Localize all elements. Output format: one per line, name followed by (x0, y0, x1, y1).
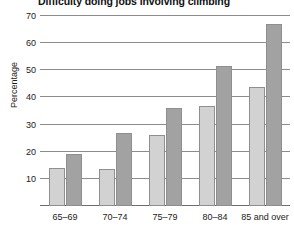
bar-group-1 (49, 16, 82, 206)
x-tick-label-5: 85 and over (241, 212, 289, 222)
y-tick-label-30: 30 (26, 120, 36, 130)
bar-5-2 (266, 24, 282, 206)
bar-3-1 (149, 135, 165, 206)
bar-1-1 (49, 168, 65, 206)
y-tick-label-60: 60 (26, 38, 36, 48)
bar-group-2 (99, 16, 132, 206)
y-tick-label-40: 40 (26, 92, 36, 102)
bar-4-2 (216, 66, 232, 206)
bar-1-2 (66, 154, 82, 206)
bar-2-2 (116, 133, 132, 206)
chart-title: Difficulty doing jobs involving climbing (38, 0, 230, 7)
x-tick-label-2: 70–74 (102, 212, 127, 222)
bar-4-1 (199, 106, 215, 206)
x-tick-label-3: 75–79 (152, 212, 177, 222)
y-tick-label-10: 10 (26, 174, 36, 184)
y-tick-label-20: 20 (26, 147, 36, 157)
y-axis-title: Percentage (9, 45, 19, 125)
y-tick-label-50: 50 (26, 65, 36, 75)
plot-area: 10203040506070 (40, 16, 290, 206)
bar-group-4 (199, 16, 232, 206)
y-tick-label-70: 70 (26, 11, 36, 21)
bar-group-5 (249, 16, 282, 206)
bar-group-3 (149, 16, 182, 206)
bar-2-1 (99, 169, 115, 206)
bar-5-1 (249, 87, 265, 206)
x-tick-label-4: 80–84 (202, 212, 227, 222)
bar-chart: Difficulty doing jobs involving climbing… (0, 0, 294, 234)
bar-3-2 (166, 108, 182, 206)
x-tick-label-1: 65–69 (52, 212, 77, 222)
